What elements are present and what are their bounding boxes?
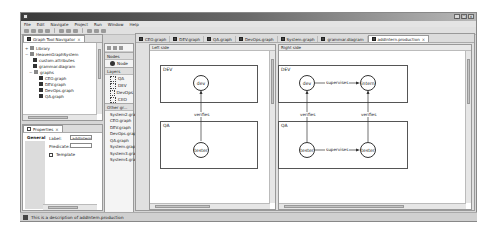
collapse-icon[interactable]: − bbox=[25, 52, 28, 57]
node-dev[interactable]: dev bbox=[193, 75, 209, 91]
tab-label: QA.graph bbox=[213, 37, 232, 42]
app-icon bbox=[23, 14, 28, 19]
template-checkbox[interactable] bbox=[49, 153, 53, 157]
palette-section-other-graphs[interactable]: Other gr... bbox=[105, 103, 133, 111]
palette-layer-dev[interactable]: DEV bbox=[105, 82, 133, 89]
scroll-thumb[interactable] bbox=[467, 59, 470, 104]
tab-grammar-diagram[interactable]: grammar.diagram bbox=[318, 36, 367, 42]
tab-qa-graph[interactable]: QA.graph bbox=[204, 36, 236, 42]
tab-addintern-production[interactable]: addIntern.production× bbox=[368, 35, 430, 42]
right-vertical-scrollbar[interactable] bbox=[465, 51, 471, 203]
tab-system-graph[interactable]: System.graph bbox=[278, 36, 319, 42]
menu-project[interactable]: Project bbox=[74, 22, 88, 27]
navigator-vertical-scrollbar[interactable] bbox=[96, 43, 102, 114]
label-input[interactable]: addIntern bbox=[70, 135, 92, 140]
select-tool-icon[interactable] bbox=[107, 46, 111, 50]
search-icon[interactable] bbox=[87, 29, 92, 33]
close-icon[interactable]: × bbox=[55, 127, 58, 132]
palette-graph[interactable]: System2.graph bbox=[105, 111, 133, 118]
node-tester[interactable]: tester bbox=[299, 142, 315, 158]
palette-layer-ceo[interactable]: CEO bbox=[105, 96, 133, 103]
tab-label: DevOps.graph bbox=[245, 37, 274, 42]
tree-label: custom.attributes bbox=[39, 58, 75, 63]
edge-label-verifies[interactable]: verifies bbox=[193, 112, 210, 117]
expand-icon[interactable]: + bbox=[25, 46, 28, 51]
back-icon[interactable] bbox=[94, 29, 99, 33]
external-tools-icon[interactable] bbox=[73, 29, 78, 33]
forward-icon[interactable] bbox=[101, 29, 106, 33]
tab-ceo-graph[interactable]: CEO.graph bbox=[136, 36, 170, 42]
palette-graph[interactable]: DevOps.graph bbox=[105, 131, 133, 138]
section-general[interactable]: General bbox=[25, 134, 45, 141]
connection-tool-icon[interactable] bbox=[119, 46, 123, 50]
graph-file-icon bbox=[207, 37, 211, 41]
edge-label-supervises[interactable]: supervises bbox=[325, 80, 349, 85]
scroll-thumb[interactable] bbox=[271, 59, 274, 104]
graph-file-icon bbox=[239, 37, 243, 41]
navigator-icon bbox=[27, 37, 31, 41]
tab-graph-tool-navigator[interactable]: Graph Tool Navigator × bbox=[23, 35, 85, 42]
graph-file-icon bbox=[139, 37, 143, 41]
menu-run[interactable]: Run bbox=[94, 22, 102, 27]
close-button[interactable]: × bbox=[468, 14, 474, 19]
node-tester[interactable]: tester bbox=[193, 142, 209, 158]
node-tester[interactable]: tester bbox=[360, 142, 376, 158]
properties-horizontal-scrollbar[interactable] bbox=[43, 204, 97, 210]
collapse-icon[interactable]: − bbox=[29, 70, 32, 75]
palette-layer-devops[interactable]: DevOps bbox=[105, 89, 133, 96]
menu-help[interactable]: Help bbox=[130, 22, 139, 27]
undo-icon[interactable] bbox=[45, 29, 50, 33]
scroll-thumb[interactable] bbox=[28, 116, 68, 119]
navigator-horizontal-scrollbar[interactable] bbox=[23, 114, 97, 120]
node-dev[interactable]: dev bbox=[299, 75, 315, 91]
edge-label-verifies[interactable]: verifies bbox=[299, 112, 316, 117]
scroll-thumb[interactable] bbox=[98, 49, 101, 79]
scroll-thumb[interactable] bbox=[284, 205, 404, 208]
scroll-thumb[interactable] bbox=[48, 206, 78, 209]
menu-edit[interactable]: Edit bbox=[37, 22, 45, 27]
menu-window[interactable]: Window bbox=[108, 22, 124, 27]
predicate-input[interactable] bbox=[70, 143, 92, 148]
minimize-button[interactable]: _ bbox=[454, 14, 460, 19]
palette-graph[interactable]: System3.graph bbox=[105, 150, 133, 157]
palette-graph[interactable]: System.graph bbox=[105, 144, 133, 151]
right-horizontal-scrollbar[interactable] bbox=[279, 203, 466, 209]
edge-label-verifies[interactable]: verifies bbox=[360, 112, 377, 117]
tab-dev-graph[interactable]: DEV.graph bbox=[170, 36, 204, 42]
maximize-button[interactable]: □ bbox=[461, 14, 467, 19]
palette-section-layers[interactable]: Layers bbox=[105, 67, 133, 75]
close-icon[interactable]: × bbox=[77, 37, 80, 42]
scroll-thumb[interactable] bbox=[155, 205, 210, 208]
palette-layer-qa[interactable]: QA bbox=[105, 75, 133, 82]
debug-icon[interactable] bbox=[59, 29, 64, 33]
menu-navigate[interactable]: Navigate bbox=[50, 22, 68, 27]
new-icon[interactable] bbox=[24, 29, 29, 33]
tree-item-qa-graph[interactable]: QA.graph bbox=[25, 93, 96, 99]
tab-devops-graph[interactable]: DevOps.graph bbox=[236, 36, 278, 42]
palette-node[interactable]: Node bbox=[105, 60, 133, 67]
left-side-pane: Left side DEV QA dev tester verifies bbox=[149, 44, 276, 210]
left-vertical-scrollbar[interactable] bbox=[269, 51, 275, 203]
tab-properties[interactable]: Properties × bbox=[23, 125, 63, 132]
navigator-tabstrip: Graph Tool Navigator × bbox=[23, 35, 102, 43]
palette-graph[interactable]: CEO.graph bbox=[105, 118, 133, 125]
zoom-tool-icon[interactable] bbox=[113, 46, 117, 50]
save-icon[interactable] bbox=[31, 29, 36, 33]
palette-graph[interactable]: System4.graph bbox=[105, 157, 133, 164]
close-icon[interactable]: × bbox=[422, 37, 425, 42]
editor-area: CEO.graph DEV.graph QA.graph DevOps.grap… bbox=[135, 33, 475, 211]
edge-label-supervises[interactable]: supervises bbox=[325, 147, 349, 152]
menu-file[interactable]: File bbox=[24, 22, 31, 27]
navigator-panel: Graph Tool Navigator × +Library −HeavenG… bbox=[22, 34, 103, 121]
node-intern[interactable]: intern bbox=[360, 75, 376, 91]
run-icon[interactable] bbox=[66, 29, 71, 33]
left-horizontal-scrollbar[interactable] bbox=[150, 203, 270, 209]
palette-graph[interactable]: QA.graph bbox=[105, 137, 133, 144]
right-edges bbox=[279, 45, 473, 211]
print-icon[interactable] bbox=[38, 29, 43, 33]
tab-label: grammar.diagram bbox=[327, 37, 363, 42]
palette-graph[interactable]: DEV.graph bbox=[105, 124, 133, 131]
palette-section-nodes[interactable]: Nodes bbox=[105, 52, 133, 60]
properties-panel: Properties × General Label: addIntern Pr… bbox=[22, 124, 103, 211]
palette-label: CEO bbox=[118, 97, 127, 102]
